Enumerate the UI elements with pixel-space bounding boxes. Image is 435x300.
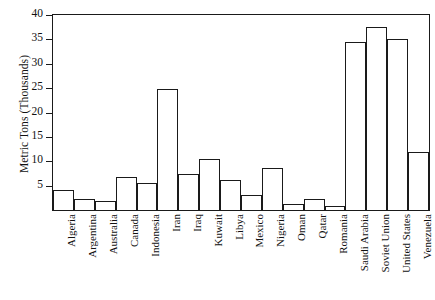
bar-canada	[116, 177, 137, 210]
bar-slot	[241, 15, 262, 210]
bar-slot	[116, 15, 137, 210]
y-axis-tick: 30	[46, 64, 53, 65]
bar-indonesia	[137, 183, 158, 210]
x-label-slot: Saudi Arabia	[344, 212, 365, 298]
y-axis-tick-label: 15	[32, 130, 44, 142]
x-label-slot: Romania	[324, 212, 345, 298]
bar-series	[53, 15, 429, 210]
x-label-slot: Libya	[219, 212, 240, 298]
y-axis-tick-label: 30	[32, 57, 44, 69]
y-axis-tick-label: 10	[32, 154, 44, 166]
bar-slot	[345, 15, 366, 210]
bar-slot	[199, 15, 220, 210]
x-label-slot: Kuwait	[198, 212, 219, 298]
bar-saudi-arabia	[345, 42, 366, 210]
bar-algeria	[53, 190, 74, 210]
bar-nigeria	[262, 168, 283, 210]
bar-slot	[304, 15, 325, 210]
bar-qatar	[304, 199, 325, 210]
bar-iraq	[178, 174, 199, 210]
x-label-slot: Iran	[156, 212, 177, 298]
x-label-slot: Argentina	[73, 212, 94, 298]
bar-slot	[366, 15, 387, 210]
x-label-slot: Mexico	[240, 212, 261, 298]
x-label-slot: Oman	[282, 212, 303, 298]
x-axis-label-venezuela: Venezuela	[422, 214, 433, 259]
bar-slot	[178, 15, 199, 210]
bar-slot	[53, 15, 74, 210]
bar-kuwait	[199, 159, 220, 210]
bar-oman	[283, 204, 304, 210]
bar-slot	[325, 15, 346, 210]
bar-slot	[262, 15, 283, 210]
x-label-slot: Indonesia	[136, 212, 157, 298]
y-axis-tick: 40	[46, 15, 53, 16]
x-label-slot: Qatar	[303, 212, 324, 298]
x-label-slot: Australia	[94, 212, 115, 298]
bar-romania	[325, 206, 346, 210]
bar-mexico	[241, 195, 262, 210]
bar-slot	[95, 15, 116, 210]
y-axis-tick: 10	[46, 161, 53, 162]
bar-chart-figure: Metric Tons (Thousands) 510152025303540 …	[0, 0, 435, 300]
bar-argentina	[74, 199, 95, 210]
plot-area: 510152025303540	[52, 14, 430, 211]
bar-slot	[137, 15, 158, 210]
y-axis-tick: 15	[46, 137, 53, 138]
y-axis-tick: 35	[46, 39, 53, 40]
x-label-slot: Venezuela	[407, 212, 428, 298]
bar-slot	[157, 15, 178, 210]
bar-slot	[387, 15, 408, 210]
y-axis-tick-label: 25	[32, 81, 44, 93]
bar-slot	[74, 15, 95, 210]
y-axis-tick-label: 35	[32, 32, 44, 44]
bar-united-states	[387, 39, 408, 210]
bar-soviet-union	[366, 27, 387, 210]
y-axis-tick: 20	[46, 113, 53, 114]
x-axis-labels: AlgeriaArgentinaAustraliaCanadaIndonesia…	[52, 212, 428, 298]
y-axis-tick-label: 40	[32, 8, 44, 20]
y-axis-tick: 25	[46, 88, 53, 89]
bar-slot	[220, 15, 241, 210]
bar-libya	[220, 180, 241, 210]
bar-slot	[408, 15, 429, 210]
x-label-slot: Iraq	[177, 212, 198, 298]
y-axis-tick: 5	[46, 186, 53, 187]
x-label-slot: Nigeria	[261, 212, 282, 298]
x-label-slot: United States	[386, 212, 407, 298]
y-axis-title: Metric Tons (Thousands)	[18, 14, 30, 214]
bar-slot	[283, 15, 304, 210]
y-axis-tick-label: 20	[32, 106, 44, 118]
x-label-slot: Soviet Union	[365, 212, 386, 298]
x-label-slot: Canada	[115, 212, 136, 298]
y-axis-tick-label: 5	[37, 179, 43, 191]
bar-australia	[95, 201, 116, 210]
bar-venezuela	[408, 152, 429, 211]
bar-iran	[157, 89, 178, 210]
x-label-slot: Algeria	[52, 212, 73, 298]
